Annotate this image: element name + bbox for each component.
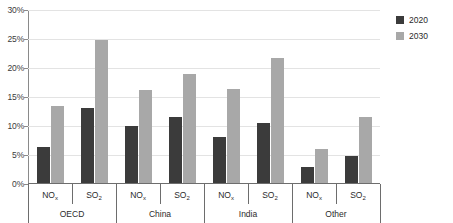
bar-china-so2-2030 — [183, 74, 196, 184]
y-axis-labels: 30%25%20%15%10%5%0% — [0, 10, 24, 184]
group-separator — [116, 184, 117, 223]
y-axis-tick-label: 25% — [8, 35, 24, 44]
legend-item-2030[interactable]: 2030 — [396, 28, 428, 44]
category-separator — [72, 184, 73, 204]
category-separator — [336, 184, 337, 204]
bar-oecd-nox-2020 — [37, 147, 50, 184]
legend-swatch-icon — [396, 16, 404, 24]
y-axis-tick-label: 10% — [8, 122, 24, 131]
y-axis-tick-label: 30% — [8, 6, 24, 15]
group-separator — [292, 184, 293, 223]
bar-china-nox-2030 — [139, 90, 152, 184]
bar-other-so2-2020 — [345, 156, 358, 184]
bar-india-nox-2030 — [227, 89, 240, 184]
plot-area — [28, 10, 380, 184]
category-separator — [160, 184, 161, 204]
bar-oecd-so2-2030 — [95, 40, 108, 184]
legend-label: 2020 — [409, 16, 428, 25]
group-label-oecd: OECD — [28, 210, 116, 219]
category-label-so2: SO2 — [336, 191, 380, 200]
category-label-nox: NOx — [292, 191, 336, 200]
bar-other-nox-2030 — [315, 149, 328, 184]
legend-label: 2030 — [409, 32, 428, 41]
bars-layer — [28, 10, 380, 184]
bar-india-so2-2020 — [257, 123, 270, 184]
group-label-china: China — [116, 210, 204, 219]
emissions-share-bar-chart: 30%25%20%15%10%5%0% NOxSO2NOxSO2NOxSO2NO… — [0, 0, 453, 223]
category-label-nox: NOx — [204, 191, 248, 200]
category-label-so2: SO2 — [160, 191, 204, 200]
chart-legend: 20202030 — [396, 12, 428, 44]
category-label-so2: SO2 — [72, 191, 116, 200]
category-label-nox: NOx — [28, 191, 72, 200]
bar-oecd-so2-2020 — [81, 108, 94, 184]
y-axis-tick-label: 20% — [8, 64, 24, 73]
y-axis-tick-label: 15% — [8, 93, 24, 102]
group-label-india: India — [204, 210, 292, 219]
bar-india-nox-2020 — [213, 137, 226, 184]
bar-oecd-nox-2030 — [51, 106, 64, 184]
legend-swatch-icon — [396, 32, 404, 40]
group-label-other: Other — [292, 210, 380, 219]
bar-china-so2-2020 — [169, 117, 182, 184]
bar-india-so2-2030 — [271, 58, 284, 184]
group-separator — [204, 184, 205, 223]
category-separator — [248, 184, 249, 204]
group-separator — [28, 184, 29, 223]
y-axis-tick-label: 0% — [12, 180, 24, 189]
group-separator — [380, 184, 381, 223]
category-label-nox: NOx — [116, 191, 160, 200]
legend-item-2020[interactable]: 2020 — [396, 12, 428, 28]
category-label-so2: SO2 — [248, 191, 292, 200]
bar-other-so2-2030 — [359, 117, 372, 184]
y-axis-tick-label: 5% — [12, 151, 24, 160]
bar-china-nox-2020 — [125, 126, 138, 184]
bar-other-nox-2020 — [301, 167, 314, 184]
